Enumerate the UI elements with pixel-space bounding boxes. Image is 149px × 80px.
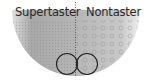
- nontaster-label: Nontaster: [86, 6, 141, 18]
- supertaster-label: Supertaster: [15, 6, 80, 18]
- supertaster-papillae-region: [12, 20, 75, 80]
- nontaster-papillae-region: [76, 20, 140, 80]
